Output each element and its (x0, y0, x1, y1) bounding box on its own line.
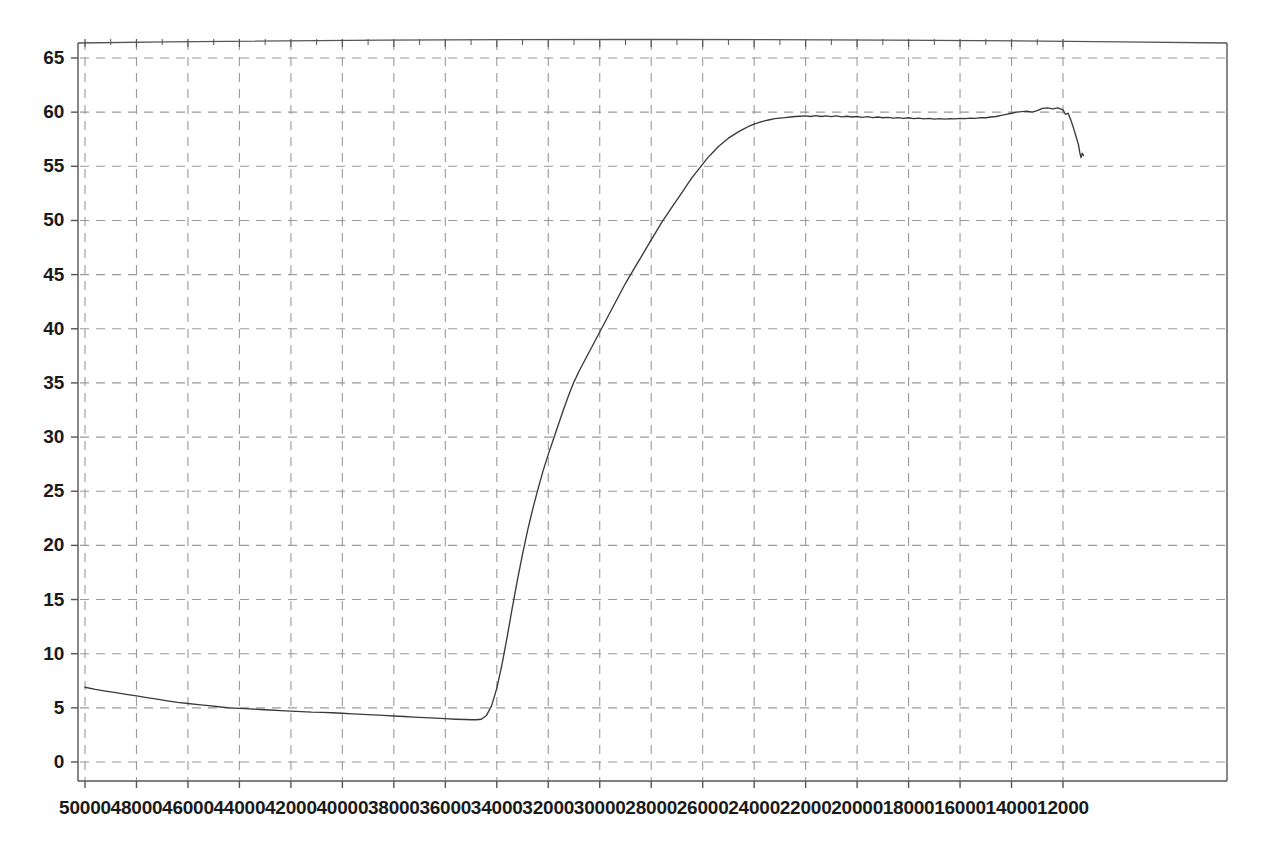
axis-ticks (71, 39, 1063, 788)
y-tick-label: 55 (12, 155, 64, 177)
x-tick-label: 42000 (265, 797, 317, 819)
y-tick-label: 60 (12, 101, 64, 123)
x-tick-label: 50000 (59, 797, 111, 819)
x-tick-label: 40000 (316, 797, 368, 819)
y-tick-label: 20 (12, 534, 64, 556)
plot-frame (78, 40, 1227, 782)
chart-container: 05101520253035404550556065 5000048000460… (0, 0, 1274, 849)
x-tick-label: 38000 (368, 797, 420, 819)
x-tick-label: 44000 (213, 797, 265, 819)
x-tick-label: 36000 (419, 797, 471, 819)
x-tick-label: 22000 (780, 797, 832, 819)
x-tick-label: 18000 (883, 797, 935, 819)
line-chart-plot (0, 0, 1274, 849)
x-tick-label: 16000 (934, 797, 986, 819)
y-tick-label: 40 (12, 318, 64, 340)
y-tick-label: 10 (12, 643, 64, 665)
x-tick-label: 30000 (574, 797, 626, 819)
y-tick-label: 50 (12, 209, 64, 231)
x-tick-label: 20000 (831, 797, 883, 819)
y-tick-label: 15 (12, 589, 64, 611)
x-tick-label: 46000 (162, 797, 214, 819)
y-tick-label: 35 (12, 372, 64, 394)
x-tick-label: 26000 (677, 797, 729, 819)
data-series-layer (85, 108, 1084, 720)
y-tick-label: 25 (12, 480, 64, 502)
y-tick-label: 0 (12, 751, 64, 773)
x-tick-label: 24000 (728, 797, 780, 819)
y-tick-label: 45 (12, 264, 64, 286)
data-line-transmittance (85, 108, 1084, 720)
x-tick-label: 14000 (986, 797, 1038, 819)
x-tick-label: 12000 (1037, 797, 1089, 819)
y-tick-label: 65 (12, 47, 64, 69)
y-tick-label: 5 (12, 697, 64, 719)
y-tick-label: 30 (12, 426, 64, 448)
plot-frame-top (78, 40, 1227, 44)
x-tick-label: 28000 (625, 797, 677, 819)
x-tick-label: 32000 (522, 797, 574, 819)
x-tick-label: 48000 (111, 797, 163, 819)
grid-lines (80, 41, 1226, 780)
x-tick-label: 34000 (471, 797, 523, 819)
